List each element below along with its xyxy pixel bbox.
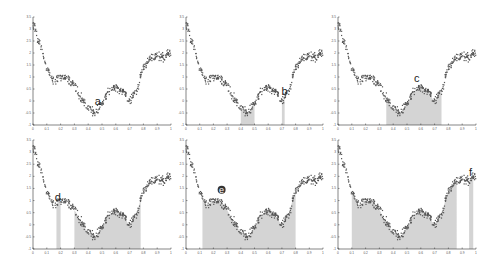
y-tick-label: 0.5 [332,87,337,91]
x-tick-label: 0.1 [350,251,355,255]
x-tick-label: 0.9 [155,127,160,131]
x-tick-label: 0.7 [280,127,285,131]
x-tick-label: 0.5 [100,127,105,131]
x-tick-label: 0.9 [307,127,312,131]
y-tick-label: 3 [29,150,31,154]
x-tick-label: 0.7 [280,251,285,255]
x-tick-label: 0.4 [239,251,244,255]
x-tick-label: 0.3 [72,127,77,131]
y-tick-label: 1.5 [332,63,337,67]
y-tick-label: -1 [28,123,31,127]
x-tick-label: 0.2 [363,127,368,131]
x-tick-label: 0.8 [293,251,298,255]
x-tick-label: 1 [322,251,324,255]
x-tick-label: 1 [322,127,324,131]
x-tick-label: 0.5 [252,251,257,255]
shaded-interval [202,191,295,249]
panel-e: 00.10.20.30.40.50.60.70.80.91-1-0.500.51… [179,138,325,255]
x-tick-label: 0.4 [239,127,244,131]
panel-label: b [282,85,288,97]
x-tick-label: 0.3 [225,127,230,131]
y-tick-label: 0.5 [27,87,32,91]
x-tick-label: 0.7 [432,127,437,131]
y-tick-label: 3 [334,27,336,31]
y-tick-label: -0.5 [331,235,337,239]
y-tick-label: 2 [334,174,336,178]
panel-label: a [95,95,102,107]
y-tick-label: 0 [29,99,31,103]
y-tick-label: 1.5 [27,63,32,67]
y-tick-label: 0.5 [180,211,185,215]
shaded-interval [56,201,60,249]
x-tick-label: 0.2 [363,251,368,255]
y-tick-label: 1.5 [27,186,32,190]
x-tick-label: 0.6 [266,251,271,255]
y-tick-label: 2.5 [180,162,185,166]
x-tick-label: 0.8 [446,251,451,255]
x-tick-label: 0.2 [58,127,63,131]
y-tick-label: 2 [29,51,31,55]
y-tick-label: 3 [29,27,31,31]
panel-a: 00.10.20.30.40.50.60.70.80.91-1-0.500.51… [26,15,173,131]
shaded-interval [386,87,441,125]
y-tick-label: -0.5 [331,111,337,115]
x-tick-label: 0.2 [58,251,63,255]
y-tick-label: 2.5 [180,39,185,43]
x-tick-label: 0 [185,251,187,255]
x-tick-label: 0.3 [377,127,382,131]
shaded-interval [469,178,473,249]
y-tick-label: -1 [28,247,31,251]
y-tick-label: 3.5 [332,15,337,19]
x-tick-label: 0.8 [141,251,146,255]
y-tick-label: 2.5 [27,39,32,43]
y-tick-label: 1.5 [180,186,185,190]
figure-six-panels: 00.10.20.30.40.50.60.70.80.91-1-0.500.51… [0,0,502,267]
y-tick-label: 2.5 [332,162,337,166]
y-tick-label: 2.5 [27,162,32,166]
y-tick-label: 1 [182,199,184,203]
x-tick-label: 1 [475,251,477,255]
y-tick-label: -1 [333,123,336,127]
x-tick-label: 0.6 [419,251,424,255]
y-tick-label: -0.5 [26,235,32,239]
x-tick-label: 0.1 [45,251,50,255]
y-tick-label: -0.5 [179,235,185,239]
y-tick-label: 2 [182,174,184,178]
x-tick-label: 0.1 [197,251,202,255]
x-tick-label: 0 [32,127,34,131]
y-tick-label: 1 [29,75,31,79]
y-tick-label: 3.5 [27,15,32,19]
panel-b: 00.10.20.30.40.50.60.70.80.91-1-0.500.51… [179,15,325,131]
y-tick-label: 1 [29,199,31,203]
y-tick-label: -0.5 [179,111,185,115]
y-tick-label: 0 [182,99,184,103]
y-tick-label: -1 [181,247,184,251]
x-tick-label: 0 [337,127,339,131]
x-tick-label: 0.4 [391,251,396,255]
scatter-points [185,22,323,116]
x-tick-label: 1 [170,127,172,131]
x-tick-label: 0.7 [127,127,132,131]
panel-c: 00.10.20.30.40.50.60.70.80.91-1-0.500.51… [331,15,478,131]
y-tick-label: 2.5 [332,39,337,43]
y-tick-label: 3.5 [332,138,337,142]
y-tick-label: 2 [29,174,31,178]
y-tick-label: 3 [334,150,336,154]
y-tick-label: 0.5 [180,87,185,91]
y-tick-label: 0 [334,99,336,103]
y-tick-label: 3 [182,27,184,31]
scatter-points [32,22,171,116]
x-tick-label: 0.4 [86,251,91,255]
x-tick-label: 0.1 [45,127,50,131]
x-tick-label: 0 [185,127,187,131]
x-tick-label: 0.9 [155,251,160,255]
y-tick-label: 1 [182,75,184,79]
panel-label: c [414,72,420,84]
x-tick-label: 0.3 [377,251,382,255]
x-tick-label: 0.6 [419,127,424,131]
x-tick-label: 1 [475,127,477,131]
y-tick-label: 1.5 [332,186,337,190]
y-tick-label: -1 [181,123,184,127]
x-tick-label: 0.7 [432,251,437,255]
x-tick-label: 0 [337,251,339,255]
